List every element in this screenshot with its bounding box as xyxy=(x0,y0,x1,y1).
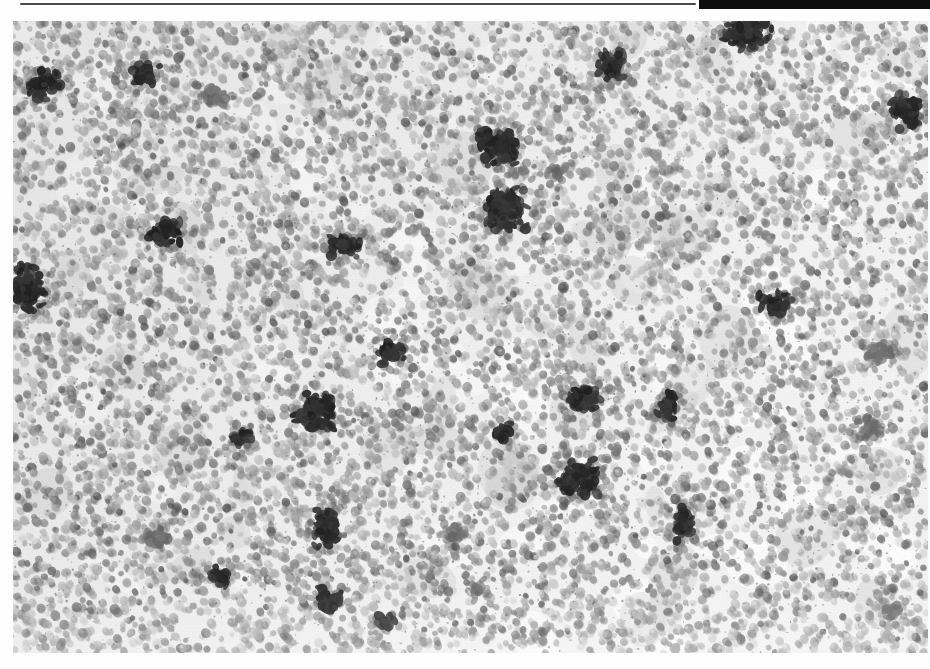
scanned-page xyxy=(0,0,930,669)
halftone-photo xyxy=(0,0,930,669)
photo-canvas xyxy=(13,21,928,653)
